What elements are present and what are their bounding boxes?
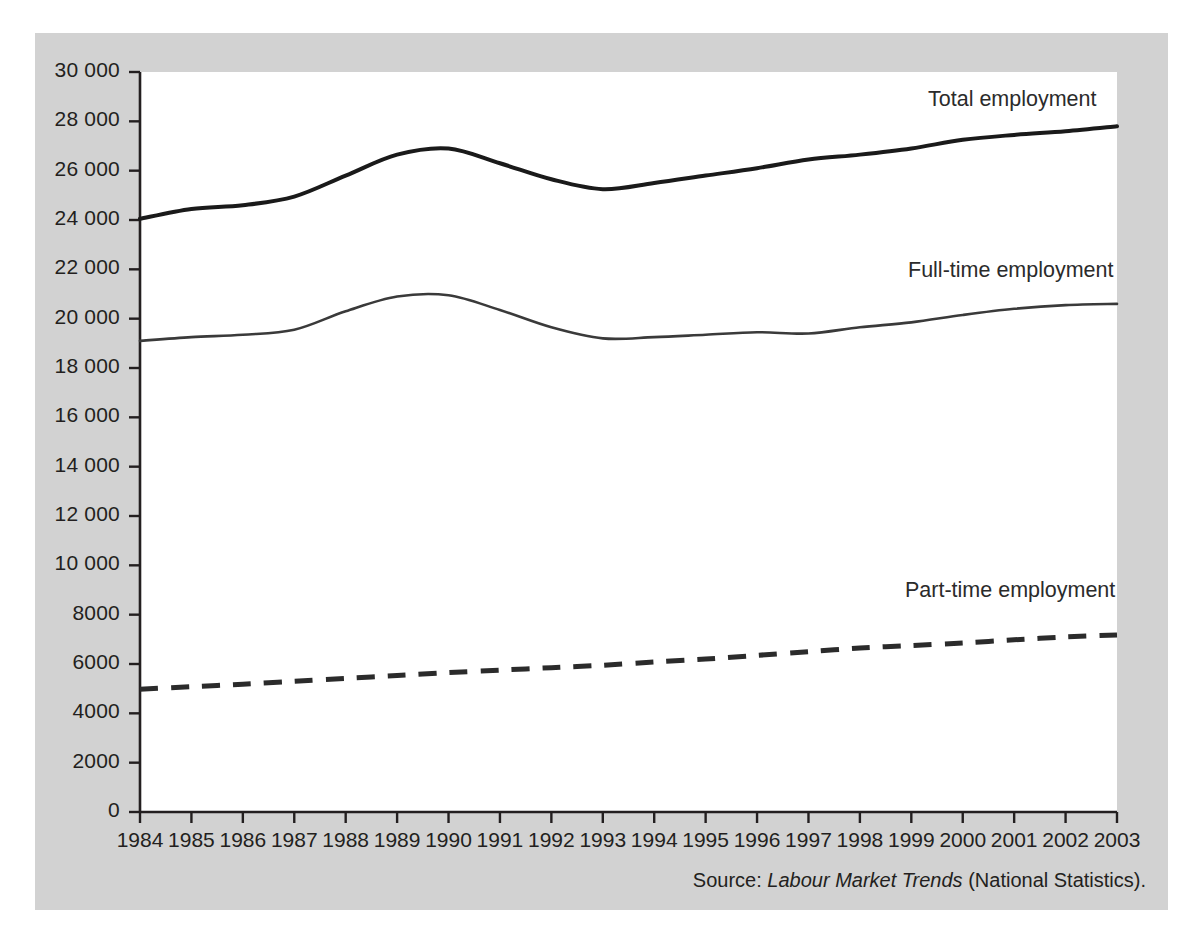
series-label-full-time-employment: Full-time employment — [908, 258, 1114, 283]
y-tick-label: 18 000 — [0, 354, 120, 378]
series-label-part-time-employment: Part-time employment — [905, 578, 1115, 603]
y-tick-label: 2000 — [0, 749, 120, 773]
axes — [140, 72, 1117, 812]
figure-container: 0200040006000800010 00012 00014 00016 00… — [0, 0, 1194, 947]
series-line-total-employment — [140, 126, 1117, 219]
source-prefix: Source: — [693, 869, 762, 891]
y-tick-label: 14 000 — [0, 453, 120, 477]
source-note: Source: Labour Market Trends (National S… — [693, 869, 1146, 892]
x-axis-ticks — [140, 812, 1117, 823]
y-tick-label: 6000 — [0, 650, 120, 674]
source-suffix: (National Statistics). — [968, 869, 1146, 891]
y-tick-label: 4000 — [0, 699, 120, 723]
data-series-group — [140, 126, 1117, 689]
source-publication-title: Labour Market Trends — [767, 869, 962, 891]
y-tick-label: 20 000 — [0, 305, 120, 329]
line-chart — [0, 0, 1194, 947]
y-tick-label: 26 000 — [0, 157, 120, 181]
y-tick-label: 10 000 — [0, 551, 120, 575]
y-tick-label: 30 000 — [0, 58, 120, 82]
series-line-part-time-employment — [140, 635, 1117, 689]
y-tick-label: 28 000 — [0, 107, 120, 131]
y-axis-ticks — [129, 72, 140, 812]
y-tick-label: 16 000 — [0, 403, 120, 427]
x-tick-label: 2003 — [1082, 828, 1152, 852]
series-label-total-employment: Total employment — [928, 87, 1097, 112]
series-line-full-time-employment — [140, 294, 1117, 341]
y-tick-label: 0 — [0, 798, 120, 822]
y-tick-label: 22 000 — [0, 255, 120, 279]
y-tick-label: 8000 — [0, 601, 120, 625]
y-tick-label: 24 000 — [0, 206, 120, 230]
y-tick-label: 12 000 — [0, 502, 120, 526]
